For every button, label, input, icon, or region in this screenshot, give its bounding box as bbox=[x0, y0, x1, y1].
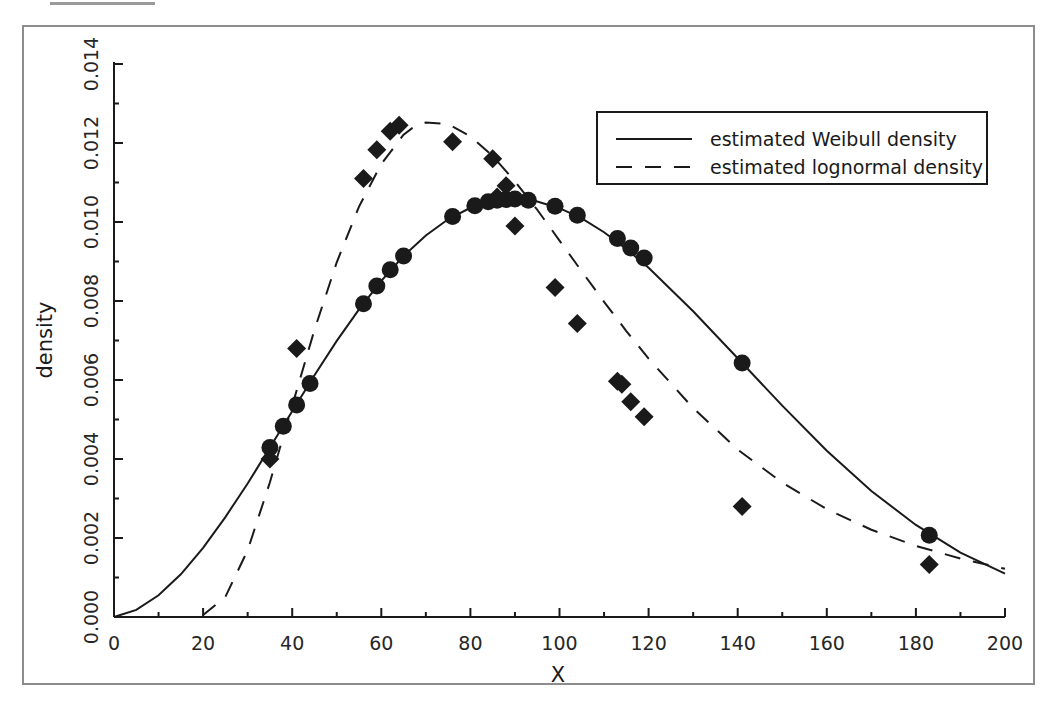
data-point-circle bbox=[569, 207, 586, 224]
x-tick-label: 80 bbox=[458, 632, 482, 654]
density-plot: 020406080100120140160180200 0.0000.0020.… bbox=[0, 0, 1050, 723]
data-point-circle bbox=[636, 249, 653, 266]
legend-label-lognormal: estimated lognormal density bbox=[710, 156, 983, 178]
x-tick-label: 140 bbox=[720, 632, 756, 654]
y-tick-label: 0.004 bbox=[80, 432, 102, 486]
x-axis-tick-labels: 020406080100120140160180200 bbox=[108, 632, 1023, 654]
data-point-circle bbox=[520, 192, 537, 209]
y-tick-label: 0.014 bbox=[80, 37, 102, 91]
data-point-diamond bbox=[483, 149, 502, 168]
data-point-diamond bbox=[568, 314, 587, 333]
data-point-diamond bbox=[635, 407, 654, 426]
x-tick-label: 180 bbox=[898, 632, 934, 654]
y-tick-label: 0.006 bbox=[80, 353, 102, 407]
x-tick-label: 20 bbox=[191, 632, 215, 654]
x-tick-label: 160 bbox=[809, 632, 845, 654]
data-point-circle bbox=[355, 295, 372, 312]
y-tick-label: 0.012 bbox=[80, 116, 102, 170]
data-point-diamond bbox=[733, 497, 752, 516]
x-tick-label: 100 bbox=[541, 632, 577, 654]
series-line bbox=[203, 122, 1005, 615]
data-point-diamond bbox=[505, 216, 524, 235]
x-tick-label: 40 bbox=[280, 632, 304, 654]
series-weibull bbox=[114, 191, 1005, 617]
series-layer bbox=[114, 116, 1005, 617]
series-lognormal bbox=[203, 116, 1005, 615]
data-point-circle bbox=[444, 208, 461, 225]
x-axis-title: X bbox=[551, 663, 565, 687]
y-axis-title: density bbox=[33, 302, 57, 379]
data-point-diamond bbox=[621, 392, 640, 411]
data-point-circle bbox=[302, 375, 319, 392]
data-point-circle bbox=[734, 355, 751, 372]
legend-label-weibull: estimated Weibull density bbox=[710, 128, 957, 150]
data-point-circle bbox=[921, 527, 938, 544]
data-point-circle bbox=[368, 277, 385, 294]
x-tick-label: 120 bbox=[630, 632, 666, 654]
data-point-circle bbox=[288, 396, 305, 413]
x-tick-label: 0 bbox=[108, 632, 120, 654]
data-point-diamond bbox=[546, 278, 565, 297]
data-point-circle bbox=[382, 261, 399, 278]
data-point-diamond bbox=[367, 140, 386, 159]
data-point-circle bbox=[395, 247, 412, 264]
y-tick-label: 0.008 bbox=[80, 274, 102, 328]
y-tick-label: 0.000 bbox=[80, 590, 102, 644]
figure-container: 020406080100120140160180200 0.0000.0020.… bbox=[0, 0, 1050, 723]
data-point-circle bbox=[547, 198, 564, 215]
data-point-diamond bbox=[287, 339, 306, 358]
x-tick-label: 60 bbox=[369, 632, 393, 654]
y-tick-label: 0.010 bbox=[80, 195, 102, 249]
y-tick-label: 0.002 bbox=[80, 511, 102, 565]
y-axis-tick-labels: 0.0000.0020.0040.0060.0080.0100.0120.014 bbox=[80, 37, 102, 644]
x-tick-label: 200 bbox=[987, 632, 1023, 654]
series-line bbox=[114, 199, 1005, 617]
chart-legend: estimated Weibull density estimated logn… bbox=[597, 112, 987, 184]
data-point-circle bbox=[275, 418, 292, 435]
data-point-diamond bbox=[920, 555, 939, 574]
data-point-diamond bbox=[443, 132, 462, 151]
